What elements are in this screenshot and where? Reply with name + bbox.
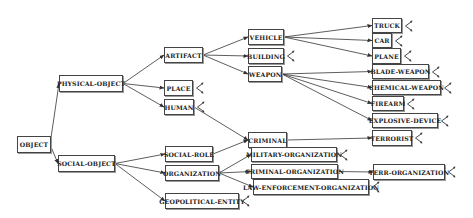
node-building[interactable]: BUILDING (248, 48, 284, 64)
edge-artifact-to-building (203, 55, 248, 56)
edge-social-role-to-criminal (213, 140, 248, 154)
node-place[interactable]: PLACE (164, 80, 193, 96)
node-weapon[interactable]: WEAPON (248, 66, 282, 82)
expand-node-icon[interactable] (195, 82, 204, 94)
edge-social-object-to-organization (115, 164, 165, 174)
expand-node-icon[interactable] (241, 195, 250, 207)
expand-node-icon[interactable] (403, 50, 412, 62)
node-plane[interactable]: PLANE (372, 48, 401, 64)
expand-node-icon[interactable] (414, 132, 423, 144)
node-object[interactable]: OBJECT (17, 136, 51, 153)
expand-node-icon[interactable] (394, 35, 403, 47)
edge-social-object-to-geopolitical-entity (115, 164, 165, 202)
edge-object-to-physical-object (50, 84, 59, 145)
node-terr-organization[interactable]: TERR-ORGANIZATION (373, 164, 445, 180)
expand-node-icon[interactable] (404, 20, 413, 32)
node-geopolitical-entity[interactable]: GEOPOLITICAL-ENTITY (165, 193, 239, 209)
expand-node-icon[interactable] (286, 50, 295, 62)
node-physical-object[interactable]: PHYSICAL-OBJECT (59, 75, 123, 92)
expand-node-icon[interactable] (339, 149, 348, 161)
expand-node-icon[interactable] (431, 66, 440, 78)
edge-social-object-to-social-role (115, 154, 165, 164)
node-chemical-weapon[interactable]: CHEMICAL-WEAPON (372, 80, 441, 95)
edge-weapon-to-blade-weapon (282, 72, 372, 75)
edge-physical-object-to-artifact (123, 55, 164, 84)
ontology-diagram: OBJECTPHYSICAL-OBJECTSOCIAL-OBJECTARTIFA… (0, 0, 473, 218)
node-criminal-organization[interactable]: CRIMINAL-ORGANIZATION (251, 164, 338, 179)
node-artifact[interactable]: ARTIFACT (164, 47, 203, 63)
edge-artifact-to-weapon (203, 55, 248, 74)
expand-node-icon[interactable] (371, 181, 380, 193)
node-law-enforcement-organization[interactable]: LAW-ENFORCEMENT-ORGANIZATION (253, 179, 369, 195)
expand-node-icon[interactable] (440, 115, 449, 127)
node-firearm[interactable]: FIREARM (372, 96, 404, 111)
node-military-organization[interactable]: MILITARY-ORGANIZATION (251, 147, 337, 162)
edge-weapon-to-firearm (282, 74, 372, 104)
expand-node-icon[interactable] (196, 101, 205, 113)
edge-artifact-to-vehicle (203, 37, 248, 55)
edge-criminal-to-terrorist (287, 138, 372, 140)
node-social-object[interactable]: SOCIAL-OBJECT (58, 155, 115, 172)
node-organization[interactable]: ORGANIZATION (165, 165, 219, 181)
node-blade-weapon[interactable]: BLADE-WEAPON (372, 64, 429, 79)
node-social-role[interactable]: SOCIAL-ROLE (165, 146, 213, 162)
node-explosive-device[interactable]: EXPLOSIVE-DEVICE (372, 113, 438, 128)
node-vehicle[interactable]: VEHICLE (248, 29, 284, 45)
expand-node-icon[interactable] (443, 82, 452, 94)
node-human[interactable]: HUMAN (164, 99, 194, 115)
edge-vehicle-to-truck (284, 26, 372, 38)
node-truck[interactable]: TRUCK (372, 18, 402, 33)
node-car[interactable]: CAR (372, 33, 392, 48)
node-terrorist[interactable]: TERRORIST (372, 130, 412, 146)
expand-node-icon[interactable] (406, 98, 415, 110)
node-criminal[interactable]: CRIMINAL (248, 132, 287, 148)
expand-node-icon[interactable] (447, 166, 456, 178)
